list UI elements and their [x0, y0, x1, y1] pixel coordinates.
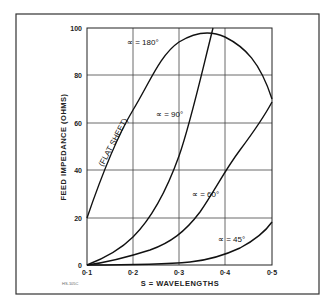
y-tick-40: 40	[74, 167, 82, 174]
y-tick-20: 20	[74, 215, 82, 222]
label-alpha-180: ∝ = 180°	[127, 38, 159, 47]
curve-alpha-180	[87, 33, 272, 218]
y-tick-60: 60	[74, 120, 82, 127]
y-axis-label: FEED IMPEDANCE (OHMS)	[59, 93, 68, 200]
chart-figure: ∝ = 180° ∝ = 90° ∝ = 60° ∝ = 45° (FLAT S…	[0, 0, 329, 302]
label-alpha-90: ∝ = 90°	[156, 110, 183, 119]
label-flat-sheet: (FLAT SHEET)	[97, 117, 130, 168]
y-tick-0: 0	[78, 262, 82, 269]
y-tick-100: 100	[70, 25, 82, 32]
y-tick-80: 80	[74, 72, 82, 79]
x-tick-0.1: 0·1	[82, 269, 92, 276]
x-tick-0.2: 0·2	[128, 269, 138, 276]
x-axis-label: S = WAVELENGTHS	[141, 279, 219, 288]
label-alpha-45: ∝ = 45°	[218, 235, 245, 244]
label-alpha-60: ∝ = 60°	[192, 190, 219, 199]
x-tick-0.4: 0·4	[220, 269, 230, 276]
x-tick-0.3: 0·3	[174, 269, 184, 276]
x-tick-0.5: 0·5	[267, 269, 277, 276]
figure-code: HS-105C	[62, 281, 79, 286]
